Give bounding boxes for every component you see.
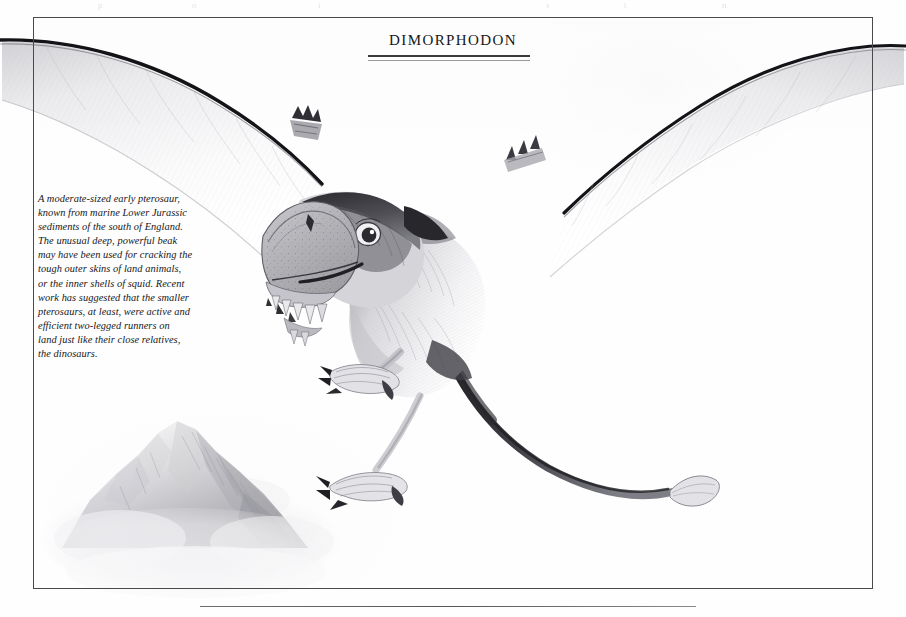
top-bleed-mark: i [318,1,321,10]
title-rule-lower [368,60,530,61]
caption-line: A moderate-sized early pterosaur, [38,192,206,206]
caption-line: or the inner shells of squid. Recent [38,277,206,291]
caption-line: work has suggested that the smaller [38,291,206,305]
caption-line: The unusual deep, powerful beak [38,234,206,248]
caption-line: sediments of the south of England. [38,220,206,234]
footer-rule [200,606,696,607]
top-bleed-mark: o [192,1,197,10]
title-rule-upper [368,55,530,57]
top-bleed-mark: t [624,1,627,10]
top-bleed-mark: s [546,1,550,10]
caption-line: may have been used for cracking the [38,248,206,262]
top-bleed-mark: p [98,1,103,10]
caption-line: land just like their close relatives, [38,333,206,347]
caption-text: A moderate-sized early pterosaur,known f… [38,192,206,361]
title-rules [368,55,530,62]
caption-line: efficient two-legged runners on [38,319,206,333]
top-bleed-marks: poistng [0,0,906,14]
top-bleed-mark: n [722,1,727,10]
book-plate-page: poistng [0,0,906,617]
caption-line: the dinosaurs. [38,347,206,361]
caption-line: known from marine Lower Jurassic [38,206,206,220]
caption-line: pterosaurs, at least, were active and [38,305,206,319]
caption-line: tough outer skins of land animals, [38,262,206,276]
